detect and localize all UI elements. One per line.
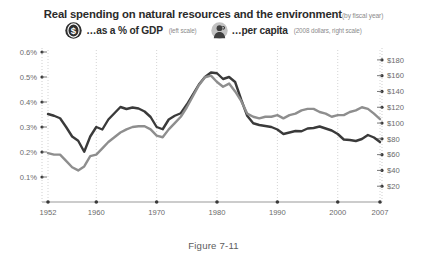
chart-title-subnote: (by fiscal year) xyxy=(342,12,383,19)
right-axis-ticklabels: $20$40$60$80$100$120$140$160$180 xyxy=(387,56,404,191)
x-axis-ticklabel: 2000 xyxy=(329,208,346,217)
chart-legend: $ …as a % of GDP (left scale) …per capit… xyxy=(0,22,427,39)
x-axis xyxy=(42,200,382,204)
left-axis-ticklabel: 0.4% xyxy=(20,98,38,107)
right-axis-ticklabel: $80 xyxy=(387,135,400,144)
x-axis-ticklabel: 1990 xyxy=(269,208,286,217)
right-axis-ticklabel: $100 xyxy=(387,119,404,128)
legend-item-percapita[interactable]: …per capita (2008 dollars, right scale) xyxy=(211,22,362,39)
person-icon xyxy=(211,22,228,39)
legend-label-gdp: …as a % of GDP xyxy=(86,25,162,36)
right-axis-ticklabel: $60 xyxy=(387,150,400,159)
figure-caption: Figure 7-11 xyxy=(0,240,427,251)
right-axis-ticklabel: $120 xyxy=(387,103,404,112)
series-line-per-capita xyxy=(48,76,380,171)
x-axis-ticklabel: 1960 xyxy=(88,208,105,217)
left-axis-ticklabel: 0.5% xyxy=(20,73,38,82)
left-axis-ticklabel: 0.3% xyxy=(20,123,38,132)
right-axis-ticklabel: $40 xyxy=(387,166,400,175)
chart-title: Real spending on natural resources and t… xyxy=(0,4,427,22)
left-axis-ticklabel: 0.6% xyxy=(20,48,38,57)
left-axis xyxy=(40,48,47,202)
x-axis-ticklabels: 1952196019701980199020002007 xyxy=(40,208,389,217)
series-line-gdp-percent xyxy=(48,73,380,152)
x-axis-ticklabel: 1970 xyxy=(148,208,165,217)
legend-label-percapita: …per capita xyxy=(232,25,288,36)
right-axis-ticklabel: $20 xyxy=(387,182,400,191)
chart-title-main: Real spending on natural resources and t… xyxy=(44,8,342,20)
svg-text:$: $ xyxy=(71,25,77,36)
right-axis-ticklabel: $180 xyxy=(387,56,404,65)
left-axis-ticklabels: 0.1%0.2%0.3%0.4%0.5%0.6% xyxy=(20,48,38,182)
left-axis-ticklabel: 0.1% xyxy=(20,173,38,182)
legend-note-percapita: (2008 dollars, right scale) xyxy=(294,27,362,34)
legend-item-gdp[interactable]: $ …as a % of GDP (left scale) xyxy=(65,22,196,39)
dollar-coin-icon: $ xyxy=(65,22,82,39)
plot-area: 0.1%0.2%0.3%0.4%0.5%0.6% $20$40$60$80$10… xyxy=(0,44,427,234)
figure-container: Real spending on natural resources and t… xyxy=(0,0,427,270)
right-axis-ticklabel: $140 xyxy=(387,87,404,96)
data-series-group xyxy=(48,73,380,171)
right-axis-ticklabel: $160 xyxy=(387,71,404,80)
x-axis-ticklabel: 2007 xyxy=(372,208,389,217)
left-axis-ticklabel: 0.2% xyxy=(20,148,38,157)
x-axis-ticklabel: 1980 xyxy=(209,208,226,217)
legend-note-gdp: (left scale) xyxy=(169,27,197,34)
line-chart: 0.1%0.2%0.3%0.4%0.5%0.6% $20$40$60$80$10… xyxy=(0,44,427,234)
x-axis-ticklabel: 1952 xyxy=(40,208,57,217)
